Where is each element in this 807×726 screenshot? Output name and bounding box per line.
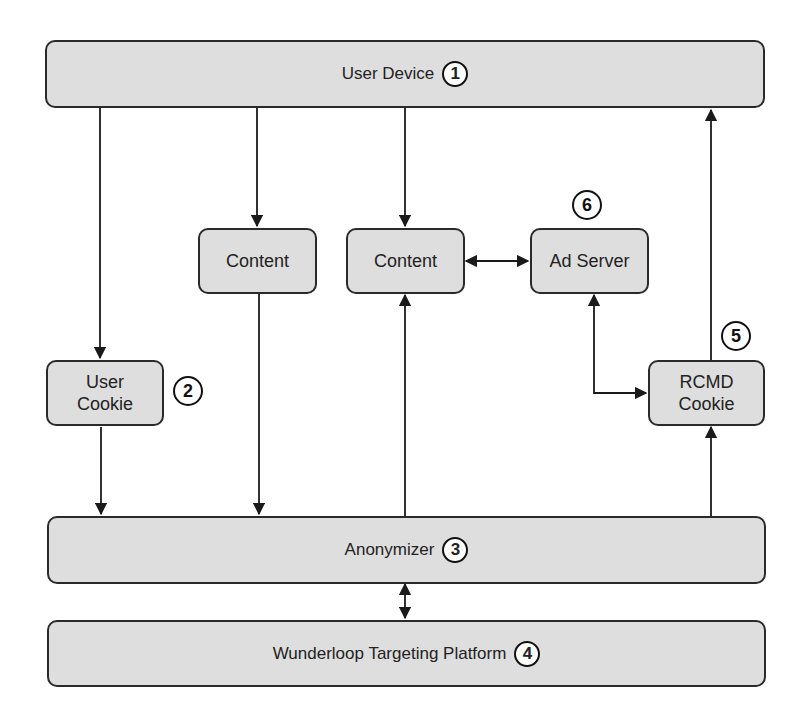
anonymizer-label: Anonymizer: [345, 539, 435, 561]
content-left-label: Content: [226, 250, 289, 272]
node-content-center: Content: [346, 228, 465, 294]
node-wunderloop-platform: Wunderloop Targeting Platform 4: [47, 620, 766, 687]
rcmd-cookie-label-line2: Cookie: [678, 393, 734, 415]
rcmd-cookie-label-line1: RCMD: [680, 371, 734, 393]
ad-server-label: Ad Server: [549, 250, 629, 272]
step-badge-5: 5: [721, 321, 751, 351]
step-badge-4: 4: [514, 641, 540, 667]
node-anonymizer: Anonymizer 3: [47, 516, 766, 584]
edge-ad-server-rcmd-cookie: [594, 295, 646, 393]
node-rcmd-cookie: RCMD Cookie: [648, 360, 765, 426]
step-badge-1: 1: [442, 61, 468, 87]
diagram-canvas: User Device 1 Content Content Ad Server …: [0, 0, 807, 726]
user-device-label: User Device: [342, 63, 435, 85]
node-ad-server: Ad Server: [530, 228, 649, 294]
step-badge-6: 6: [572, 190, 602, 220]
user-cookie-label-line1: User: [86, 371, 124, 393]
node-user-device: User Device 1: [45, 40, 765, 108]
user-cookie-label-line2: Cookie: [77, 393, 133, 415]
node-content-left: Content: [198, 228, 317, 294]
node-user-cookie: User Cookie: [46, 360, 164, 426]
wunderloop-label: Wunderloop Targeting Platform: [273, 643, 507, 665]
step-badge-3: 3: [442, 537, 468, 563]
content-center-label: Content: [374, 250, 437, 272]
step-badge-2: 2: [173, 376, 203, 406]
